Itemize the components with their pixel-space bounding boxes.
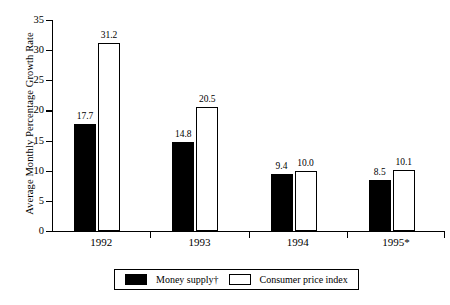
bar-value-label: 17.7 [77,111,94,121]
bar-1992-money-supply [74,124,96,231]
x-tick-mark [150,231,151,238]
x-tick-mark [249,231,250,238]
bar-value-label: 8.5 [374,167,386,177]
x-tick-label: 1995* [382,236,410,248]
y-tick-mark [46,201,52,202]
y-tick-label: 5 [39,196,44,207]
bar-value-label: 10.0 [297,158,314,168]
bar-value-label: 14.8 [175,129,192,139]
y-tick-label: 15 [34,135,45,146]
y-tick-label: 35 [34,15,45,26]
bar-value-label: 9.4 [276,161,288,171]
filled-black-swatch [125,274,147,285]
chart-figure: Average Monthly Percentage Growth Rate 0… [0,0,450,305]
y-tick-mark [46,50,52,51]
bar-1993-consumer-price-index [196,107,218,231]
y-tick-mark [46,171,52,172]
x-tick-label: 1993 [188,236,210,248]
x-tick-mark [347,231,348,238]
bar-value-label: 31.2 [101,30,118,40]
bar-value-label: 20.5 [199,94,216,104]
y-tick-label: 10 [34,165,45,176]
x-tick-label: 1994 [287,236,309,248]
legend-item-consumer-price-index: Consumer price index [229,274,348,285]
chart-legend: Money supply† Consumer price index [114,269,359,290]
legend-label-consumer-price-index: Consumer price index [260,274,348,285]
bar-1994-consumer-price-index [295,171,317,231]
bar-value-label: 10.1 [395,157,412,167]
plot-area: 05101520253035 17.731.214.820.59.410.08.… [52,20,445,232]
outlined-white-swatch [229,274,251,285]
y-tick-mark [46,20,52,21]
x-tick-mark [444,231,445,238]
y-tick-label: 0 [39,226,44,237]
y-axis-title: Average Monthly Percentage Growth Rate [24,0,35,249]
legend-label-money-supply: Money supply† [156,274,219,285]
bar-1995-money-supply [369,180,391,231]
legend-item-money-supply: Money supply† [125,274,219,285]
bar-1995-consumer-price-index [393,170,415,231]
y-tick-mark [46,80,52,81]
x-tick-label: 1992 [90,236,112,248]
y-tick-label: 30 [34,45,45,56]
bar-1993-money-supply [172,142,194,231]
bar-1992-consumer-price-index [98,43,120,231]
y-tick-mark [46,110,52,111]
y-tick-mark [46,141,52,142]
y-tick-label: 20 [34,105,45,116]
bar-1994-money-supply [271,174,293,231]
y-tick-label: 25 [34,75,45,86]
y-axis-line [52,20,53,232]
y-tick-mark [46,231,52,232]
